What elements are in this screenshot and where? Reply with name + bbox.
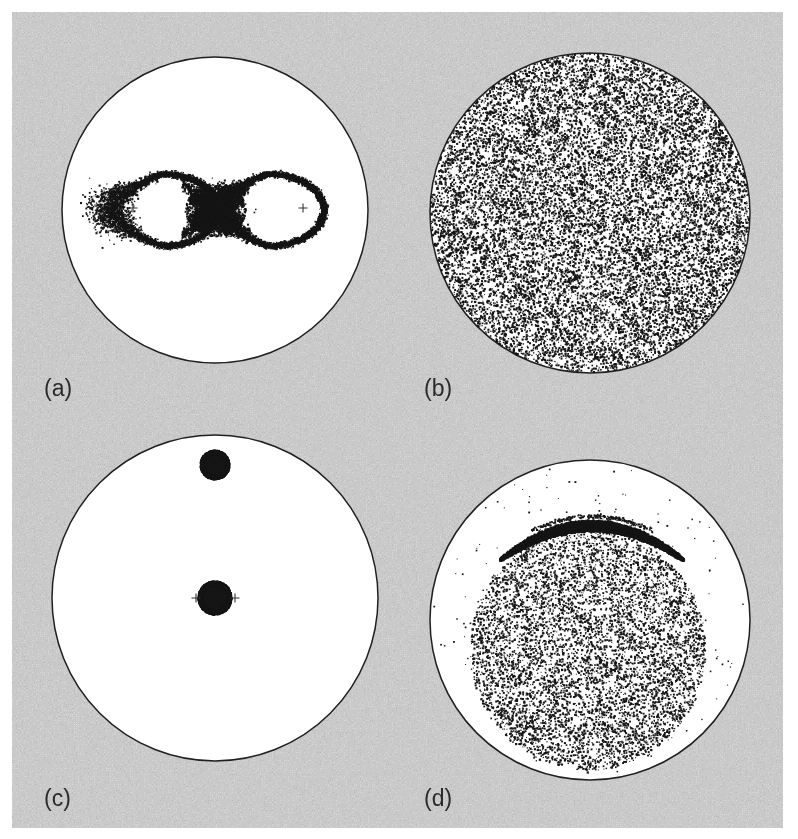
panel-label-a: (a): [44, 377, 72, 400]
panel-label-d: (d): [424, 787, 452, 810]
panel-label-b: (b): [424, 377, 452, 400]
panel-label-c: (c): [44, 787, 71, 810]
figure-root: (a) (b) (c) (d): [0, 0, 798, 839]
poincare-section-figure: [0, 0, 798, 839]
